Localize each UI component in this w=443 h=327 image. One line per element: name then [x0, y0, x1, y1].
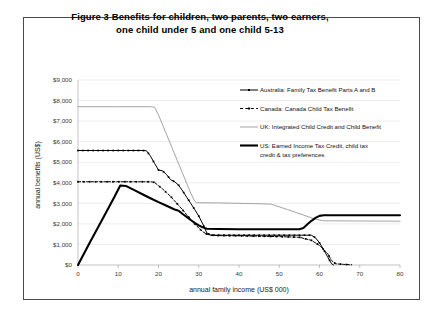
y-tick-label: $7,000 — [53, 117, 72, 124]
series-marker — [89, 181, 91, 183]
series-marker — [127, 150, 129, 152]
series-marker — [100, 181, 102, 183]
x-tick-label: 70 — [356, 270, 363, 277]
series-marker — [193, 207, 195, 209]
series-marker — [159, 186, 161, 188]
series-marker — [124, 181, 126, 183]
series-marker — [264, 235, 266, 237]
series-marker — [176, 203, 178, 205]
series-marker — [278, 234, 280, 236]
series-marker — [276, 236, 278, 238]
series-marker — [83, 181, 85, 183]
series-marker — [329, 259, 331, 261]
x-tick-label: 80 — [397, 270, 404, 277]
legend-item-label: UK: Integrated Child Credit and Child Be… — [260, 123, 381, 130]
series-marker — [173, 180, 175, 182]
series-marker — [340, 263, 342, 265]
series-marker — [95, 181, 97, 183]
series-marker — [328, 255, 330, 257]
series-marker — [311, 239, 313, 241]
series-marker — [322, 248, 324, 250]
series-marker — [82, 150, 84, 152]
series-marker — [241, 235, 243, 237]
x-tick-label: 30 — [195, 270, 202, 277]
series-marker — [316, 243, 318, 245]
series-marker — [319, 242, 321, 244]
series-marker — [304, 234, 306, 236]
series-marker — [188, 199, 190, 201]
series-line-1 — [78, 182, 352, 265]
series-marker — [77, 181, 79, 183]
series-marker — [258, 235, 260, 237]
y-axis-title: annual benefits (US$) — [34, 141, 42, 209]
x-tick-label: 0 — [76, 270, 80, 277]
series-marker — [141, 181, 143, 183]
series-marker — [171, 196, 173, 198]
series-marker — [117, 150, 119, 152]
series-marker — [97, 150, 99, 152]
y-tick-label: $6,000 — [53, 138, 72, 145]
series-marker — [182, 210, 184, 212]
x-tick-label: 60 — [316, 270, 323, 277]
legend-item-label: credit & tax preferences — [260, 151, 324, 158]
series-marker — [288, 234, 290, 236]
series-marker — [235, 235, 237, 237]
series-marker — [138, 150, 140, 152]
series-marker — [143, 150, 145, 152]
y-tick-label: $9,000 — [53, 76, 72, 83]
series-line-3 — [78, 185, 400, 265]
series-marker — [122, 150, 124, 152]
series-marker — [148, 153, 150, 155]
series-marker — [153, 161, 155, 163]
series-marker — [270, 236, 272, 238]
y-tick-label: $2,000 — [53, 220, 72, 227]
y-axis-tick-labels: $0$1,000$2,000$3,000$4,000$5,000$6,000$7… — [53, 76, 72, 268]
series-marker — [229, 235, 231, 237]
x-tick-label: 10 — [115, 270, 122, 277]
series-marker — [252, 235, 254, 237]
y-tick-label: $3,000 — [53, 200, 72, 207]
x-tick-label: 20 — [155, 270, 162, 277]
series-marker — [130, 181, 132, 183]
series-marker — [206, 233, 208, 235]
series-marker — [198, 215, 200, 217]
series-marker — [153, 181, 155, 183]
series-marker — [293, 234, 295, 236]
x-axis-tick-labels: 01020304050607080 — [76, 270, 404, 277]
series-marker — [102, 150, 104, 152]
series-marker — [217, 235, 219, 237]
series-marker — [147, 181, 149, 183]
series-marker — [165, 191, 167, 193]
series-marker — [283, 234, 285, 236]
series-marker — [334, 262, 336, 264]
series-marker — [309, 234, 311, 236]
chart-legend: Australia: Family Tax Benefit Parts A an… — [240, 86, 381, 158]
series-marker — [118, 181, 120, 183]
series-marker — [299, 237, 301, 239]
series-marker — [158, 169, 160, 171]
series-marker — [211, 234, 213, 236]
y-tick-label: $0 — [65, 261, 72, 268]
series-marker — [112, 150, 114, 152]
series-marker — [132, 150, 134, 152]
legend-item-label: US: Earned Income Tax Credit, child tax — [260, 142, 368, 149]
series-marker — [287, 236, 289, 238]
series-marker — [87, 150, 89, 152]
series-marker — [163, 171, 165, 173]
series-marker — [183, 192, 185, 194]
series-marker — [223, 235, 225, 237]
series-marker — [293, 236, 295, 238]
series-marker — [136, 181, 138, 183]
series-marker — [314, 236, 316, 238]
x-tick-label: 50 — [276, 270, 283, 277]
legend-item-label: Australia: Family Tax Benefit Parts A an… — [260, 86, 375, 93]
legend-item-label: Canada: Canada Child Tax Benefit — [260, 105, 354, 112]
series-marker — [106, 181, 108, 183]
series-marker — [107, 150, 109, 152]
y-tick-label: $4,000 — [53, 179, 72, 186]
series-marker — [77, 150, 79, 152]
y-tick-label: $5,000 — [53, 158, 72, 165]
data-series-group — [77, 107, 400, 266]
x-axis-title: annual family income (US$ 000) — [189, 286, 289, 294]
y-tick-label: $1,000 — [53, 241, 72, 248]
